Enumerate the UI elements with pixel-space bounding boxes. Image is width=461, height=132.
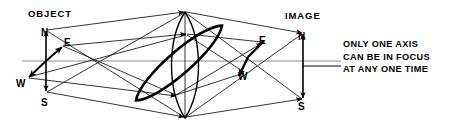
object-cardinal-e: E bbox=[64, 37, 71, 48]
diagram-canvas: OBJECT IMAGE N E W S N E W S ONLY ONE AX… bbox=[0, 0, 461, 132]
focus-note-line-1: ONLY ONE AXIS bbox=[343, 39, 418, 49]
object-label: OBJECT bbox=[28, 8, 72, 19]
object-cardinal-n: N bbox=[41, 27, 48, 38]
image-cardinal-w: W bbox=[238, 71, 248, 82]
focus-note-line-2: CAN BE IN FOCUS bbox=[343, 52, 430, 62]
image-label: IMAGE bbox=[285, 10, 321, 21]
optics-diagram-figure: OBJECT IMAGE N E W S N E W S ONLY ONE AX… bbox=[0, 0, 461, 132]
focus-note-line-3: AT ANY ONE TIME bbox=[343, 64, 428, 74]
image-cardinal-s: S bbox=[298, 101, 305, 112]
tilted-focal-plane bbox=[129, 17, 230, 109]
image-cardinal-n: N bbox=[298, 31, 305, 42]
object-cardinal-w: W bbox=[16, 78, 26, 89]
image-cardinal-e: E bbox=[259, 35, 266, 46]
object-cardinal-s: S bbox=[41, 97, 48, 108]
focus-note: ONLY ONE AXIS CAN BE IN FOCUS AT ANY ONE… bbox=[343, 39, 430, 74]
